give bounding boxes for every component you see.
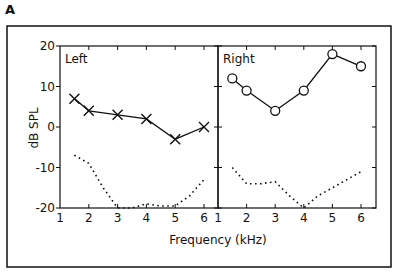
x-tick-label: 5 bbox=[329, 211, 337, 225]
x-marker-icon bbox=[69, 94, 79, 104]
x-tick-label: 3 bbox=[114, 211, 122, 225]
x-tick-label: 1 bbox=[56, 211, 64, 225]
circle-marker-icon bbox=[328, 50, 337, 59]
circle-marker-icon bbox=[271, 106, 280, 115]
threshold-series-line bbox=[74, 99, 204, 140]
x-marker-icon bbox=[170, 134, 180, 144]
dotted-series-line bbox=[74, 155, 204, 208]
x-tick-label: 4 bbox=[300, 211, 308, 225]
circle-marker-icon bbox=[299, 86, 308, 95]
x-marker-icon bbox=[199, 122, 209, 132]
left-panel: 12345620100-10-20Left bbox=[35, 39, 218, 225]
x-tick-label: 6 bbox=[357, 211, 365, 225]
x-tick-label: 4 bbox=[143, 211, 151, 225]
x-tick-label: 3 bbox=[271, 211, 279, 225]
x-tick-label: 6 bbox=[200, 211, 208, 225]
y-tick-label: -10 bbox=[35, 161, 55, 175]
circle-marker-icon bbox=[228, 74, 237, 83]
y-tick-label: 10 bbox=[40, 80, 55, 94]
panel-title: Left bbox=[65, 52, 88, 66]
x-tick-label: 1 bbox=[214, 211, 222, 225]
circle-marker-icon bbox=[242, 86, 251, 95]
x-tick-label: 5 bbox=[171, 211, 179, 225]
dotted-series-line bbox=[232, 168, 361, 209]
audiogram-chart: 12345620100-10-20Left 123456Right dB SPL… bbox=[0, 0, 393, 278]
y-tick-label: -20 bbox=[35, 201, 55, 215]
right-panel: 123456Right bbox=[214, 46, 376, 225]
circle-marker-icon bbox=[357, 62, 366, 71]
y-tick-label: 20 bbox=[40, 39, 55, 53]
y-tick-label: 0 bbox=[47, 120, 55, 134]
x-tick-label: 2 bbox=[85, 211, 93, 225]
plot-frame bbox=[60, 46, 218, 208]
y-axis-label: dB SPL bbox=[27, 107, 41, 149]
x-axis-label: Frequency (kHz) bbox=[169, 233, 266, 247]
panel-title: Right bbox=[223, 52, 255, 66]
plot-frame bbox=[218, 46, 376, 208]
x-tick-label: 2 bbox=[243, 211, 251, 225]
